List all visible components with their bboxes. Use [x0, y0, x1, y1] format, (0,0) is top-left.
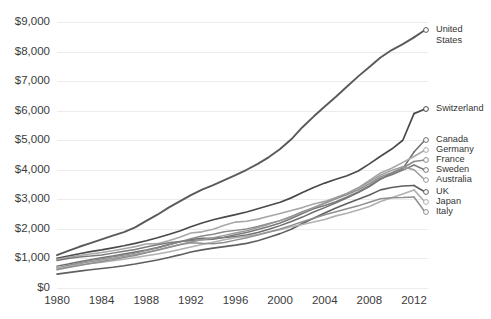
- endpoint-marker-germany: [424, 148, 429, 153]
- y-axis-tick-label: $0: [37, 281, 50, 293]
- x-axis-tick-label: 1992: [178, 294, 204, 306]
- y-axis-tick-label: $9,000: [15, 15, 50, 27]
- x-axis-tick-label: 1988: [133, 294, 159, 306]
- x-axis-tick-label: 1980: [44, 294, 70, 306]
- series-label-sweden: Sweden: [436, 164, 469, 174]
- series-label-japan: Japan: [436, 196, 461, 206]
- endpoint-marker-sweden: [424, 168, 429, 173]
- y-axis-tick-label: $7,000: [15, 74, 50, 86]
- y-axis-tick-label: $8,000: [15, 45, 50, 57]
- x-axis-labels-group: 198019841988199219962000200420082012: [44, 294, 427, 306]
- line-chart: $0$1,000$2,000$3,000$4,000$5,000$6,000$7…: [0, 0, 491, 319]
- endpoint-marker-switzerland: [424, 107, 429, 112]
- y-axis-tick-label: $4,000: [15, 163, 50, 175]
- y-axis-tick-label: $6,000: [15, 104, 50, 116]
- x-axis-tick-label: 2008: [357, 294, 383, 306]
- endpoint-marker-canada: [424, 138, 429, 143]
- endpoint-marker-japan: [424, 200, 429, 205]
- series-label-australia: Australia: [436, 174, 473, 184]
- endpoint-marker-france: [424, 158, 429, 163]
- endpoint-marker-australia: [424, 178, 429, 183]
- y-axis-tick-label: $3,000: [15, 192, 50, 204]
- series-label-italy: Italy: [436, 206, 453, 216]
- series-label-uk: UK: [436, 186, 450, 196]
- chart-canvas: $0$1,000$2,000$3,000$4,000$5,000$6,000$7…: [0, 0, 491, 319]
- series-label-france: France: [436, 154, 465, 164]
- series-label-canada: Canada: [436, 134, 469, 144]
- y-axis-tick-label: $2,000: [15, 222, 50, 234]
- x-axis-tick-label: 1996: [223, 294, 249, 306]
- series-label-united-states: UnitedStates: [436, 24, 463, 45]
- endpoint-marker-united-states: [424, 28, 429, 33]
- series-label-switzerland: Switzerland: [436, 103, 484, 113]
- y-axis-tick-label: $5,000: [15, 133, 50, 145]
- x-axis-tick-label: 2004: [312, 294, 338, 306]
- x-axis-tick-label: 1984: [89, 294, 115, 306]
- x-axis-tick-label: 2012: [401, 294, 427, 306]
- endpoint-marker-italy: [424, 210, 429, 215]
- endpoint-marker-uk: [424, 190, 429, 195]
- y-axis-tick-label: $1,000: [15, 251, 50, 263]
- x-axis-tick-label: 2000: [267, 294, 293, 306]
- series-label-germany: Germany: [436, 144, 474, 154]
